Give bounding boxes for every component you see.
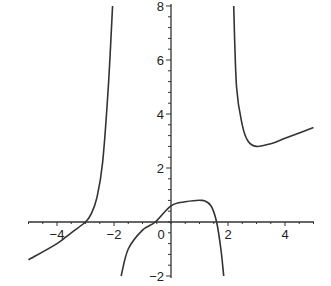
x-tick-label: −4 xyxy=(50,227,65,242)
y-tick-label: 6 xyxy=(157,53,164,68)
plot: −4−224−224680 xyxy=(0,0,331,286)
axes xyxy=(28,4,314,278)
y-tick-label: 8 xyxy=(157,0,164,14)
x-tick-label: 4 xyxy=(281,227,288,242)
y-tick-label: −2 xyxy=(149,269,164,284)
y-tick-label: 4 xyxy=(157,107,164,122)
x-tick-label: 2 xyxy=(224,227,231,242)
y-tick-label: 2 xyxy=(157,161,164,176)
tick-labels: −4−224−224680 xyxy=(50,0,289,284)
curve-branch-2 xyxy=(234,6,314,146)
curve-branch-1 xyxy=(121,200,224,276)
x-tick-label: −2 xyxy=(107,227,122,242)
origin-label: 0 xyxy=(157,227,164,242)
